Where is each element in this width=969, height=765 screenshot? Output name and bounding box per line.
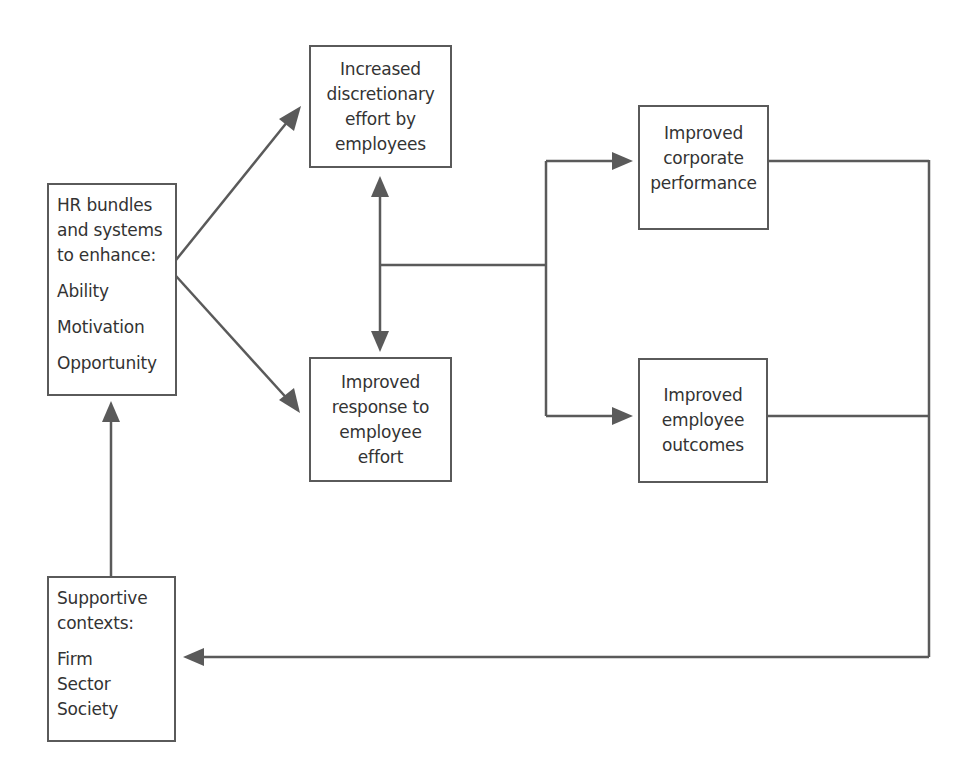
node-text: outcomes <box>662 433 744 458</box>
node-text: performance <box>650 171 757 196</box>
node-hr-item-ability: Ability <box>57 279 175 304</box>
node-discretionary-effort: Increased discretionary effort by employ… <box>309 45 452 168</box>
node-text: employee <box>662 408 744 433</box>
arrowhead-icon <box>371 176 389 197</box>
arrowhead-icon <box>371 331 389 352</box>
node-text: response to <box>332 395 429 420</box>
node-text: employees <box>335 132 426 157</box>
node-text: effort by <box>345 107 416 132</box>
node-employee-outcomes: Improved employee outcomes <box>638 358 768 483</box>
node-text: effort <box>358 445 403 470</box>
arrowhead-icon <box>183 648 204 666</box>
node-text: Improved <box>664 121 743 146</box>
node-hr-item-motivation: Motivation <box>57 315 175 340</box>
edge-hr-to-response <box>176 276 292 404</box>
node-sc-heading-2: contexts: <box>57 611 174 636</box>
node-sc-heading-1: Supportive <box>57 586 174 611</box>
edge-hr-to-discretionary <box>176 116 292 260</box>
node-supportive-contexts: Supportive contexts: Firm Sector Society <box>47 576 176 742</box>
arrowhead-icon <box>102 401 120 422</box>
arrowhead-icon <box>612 407 633 425</box>
arrowhead-icon <box>612 152 633 170</box>
node-text: corporate <box>663 146 744 171</box>
node-text: employee <box>339 420 421 445</box>
node-sc-item-firm: Firm <box>57 647 174 672</box>
node-text: Improved <box>341 370 420 395</box>
node-sc-item-sector: Sector <box>57 672 174 697</box>
node-corporate-performance: Improved corporate performance <box>638 105 769 230</box>
node-text: Increased <box>340 57 421 82</box>
node-text: Improved <box>663 383 742 408</box>
node-hr-item-opportunity: Opportunity <box>57 351 175 376</box>
node-sc-item-society: Society <box>57 697 174 722</box>
node-hr-heading-2: and systems <box>57 218 175 243</box>
node-hr-bundles: HR bundles and systems to enhance: Abili… <box>47 183 177 396</box>
node-text: discretionary <box>326 82 434 107</box>
node-hr-heading-1: HR bundles <box>57 193 175 218</box>
node-response-to-effort: Improved response to employee effort <box>309 357 452 482</box>
node-hr-heading-3: to enhance: <box>57 243 175 268</box>
